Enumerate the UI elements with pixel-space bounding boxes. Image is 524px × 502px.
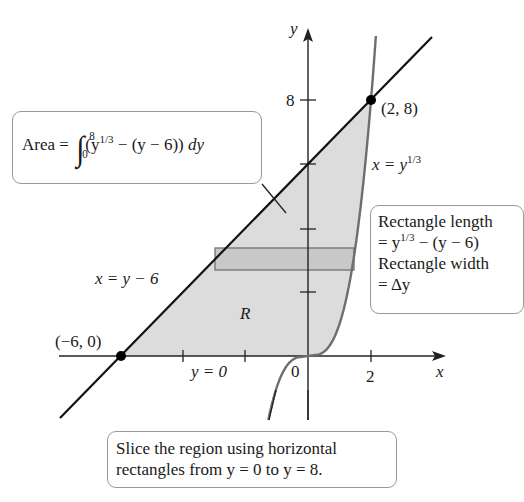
integrand-rest: − (y − 6)) — [114, 135, 188, 154]
slice-instruction-callout: Slice the region using horizontal rectan… — [107, 431, 397, 488]
integral-upper-limit: 8 — [89, 124, 95, 148]
slice-leader-line-1 — [269, 390, 276, 420]
rectangle-length-formula: = y1/3 − (y − 6) — [378, 232, 523, 253]
integrand-exponent: 1/3 — [100, 133, 114, 145]
integrand-differential: dy — [188, 135, 204, 154]
point-label-2-8: (2, 8) — [381, 100, 418, 117]
curve-label-cube-root: x = y1/3 — [372, 156, 421, 173]
point-2-8 — [366, 95, 376, 105]
representative-rectangle — [215, 248, 354, 270]
area-prefix: Area = — [22, 135, 69, 154]
area-integral-callout: Area = ∫80(y1/3 − (y − 6)) dy — [12, 111, 262, 184]
rectangle-width-formula: = Δy — [378, 274, 523, 295]
x-axis-label: x — [436, 363, 444, 380]
curve-label-line: x = y − 6 — [95, 270, 159, 287]
rectangle-width-title: Rectangle width — [378, 253, 523, 274]
x-tick-label-2: 2 — [366, 368, 375, 385]
integral-sign-icon: ∫80 — [76, 135, 84, 159]
x-tick-label-0: 0 — [291, 363, 300, 380]
y-axis-label: y — [290, 20, 298, 37]
rectangle-dimensions-callout: Rectangle length = y1/3 − (y − 6) Rectan… — [370, 205, 524, 314]
rectangle-length-title: Rectangle length — [378, 211, 523, 232]
slice-line-1: Slice the region using horizontal — [116, 438, 396, 459]
region-label: R — [240, 305, 250, 322]
integral-lower-limit: 0 — [82, 142, 88, 166]
slice-line-2: rectangles from y = 0 to y = 8. — [116, 459, 396, 480]
y-tick-label-8: 8 — [286, 92, 295, 109]
y-equals-zero-label: y = 0 — [191, 363, 227, 380]
point-label-neg6-0: (−6, 0) — [55, 333, 101, 350]
point-neg6-0 — [116, 351, 126, 361]
